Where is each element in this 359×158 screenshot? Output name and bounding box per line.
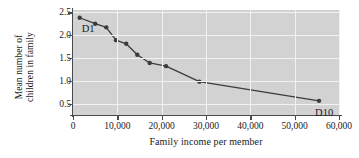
y-tick-mark [68,12,73,13]
gridline-vertical [162,10,163,115]
y-tick-mark [68,58,73,59]
series-line [80,18,319,101]
x-tick-label: 30,000 [193,121,219,132]
gridline-vertical [117,10,118,115]
data-point-marker [77,16,81,20]
x-tick-mark [206,115,207,120]
x-tick-label: 60,000 [326,121,352,132]
gridline-vertical [295,10,296,115]
gridline-vertical [339,10,340,115]
gridline-vertical [206,10,207,115]
x-tick-label: 0 [71,121,76,132]
point-annotation-d1: D1 [82,23,95,34]
gridline-vertical [250,10,251,115]
x-axis-title: Family income per member [73,136,339,148]
x-tick-label: 10,000 [104,121,130,132]
y-axis-title-line1: Mean number of [14,12,25,122]
y-tick-mark [68,81,73,82]
plot-area [73,10,339,115]
x-tick-label: 50,000 [282,121,308,132]
data-point-marker [164,64,168,68]
data-point-marker [135,53,139,57]
y-axis-title-line2: children in family [25,12,36,122]
y-tick-mark [68,104,73,105]
x-tick-mark [250,115,251,120]
data-point-marker [147,61,151,65]
y-axis-title: Mean number of children in family [14,12,44,122]
x-tick-mark [117,115,118,120]
data-point-marker [317,99,321,103]
y-axis-spine [72,8,73,117]
data-point-marker [124,42,128,46]
x-tick-mark [73,115,74,120]
x-tick-label: 20,000 [149,121,175,132]
x-axis-tick-labels: 010,00020,00030,00040,00050,00060,000 [0,121,359,135]
x-tick-label: 40,000 [237,121,263,132]
x-tick-mark [295,115,296,120]
data-point-marker [104,25,108,29]
chart-figure: Mean number of children in family 0.51.0… [0,0,359,158]
x-tick-mark [339,115,340,120]
y-tick-mark [68,35,73,36]
x-tick-mark [162,115,163,120]
point-annotation-d10: D10 [315,107,333,118]
